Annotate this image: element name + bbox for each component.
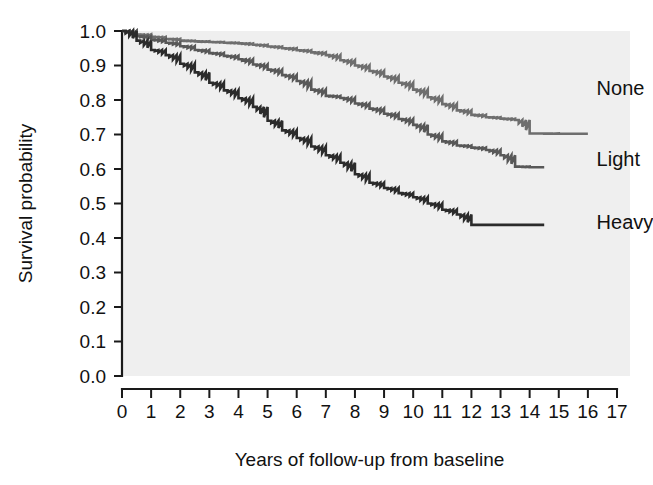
- y-axis-title: Survival probability: [15, 123, 36, 283]
- survival-curve-chart: 0.00.10.20.30.40.50.60.70.80.91.0 012345…: [0, 0, 653, 485]
- x-tick-label: 7: [321, 401, 332, 422]
- x-axis-ticks: 01234567891011121314151617: [117, 389, 628, 422]
- x-tick-label: 17: [606, 401, 627, 422]
- x-tick-label: 10: [403, 401, 424, 422]
- x-tick-label: 12: [461, 401, 482, 422]
- y-tick-label: 0.7: [80, 124, 106, 145]
- x-tick-label: 6: [291, 401, 302, 422]
- y-tick-label: 0.3: [80, 262, 106, 283]
- series-label-none: None: [597, 77, 645, 99]
- y-tick-label: 0.5: [80, 193, 106, 214]
- y-tick-label: 0.9: [80, 55, 106, 76]
- x-tick-label: 16: [577, 401, 598, 422]
- y-tick-label: 0.4: [80, 228, 107, 249]
- y-tick-label: 0.1: [80, 331, 106, 352]
- x-tick-label: 5: [262, 401, 273, 422]
- x-tick-label: 0: [117, 401, 128, 422]
- y-tick-label: 1.0: [80, 21, 106, 42]
- series-label-heavy: Heavy: [597, 211, 653, 233]
- x-tick-label: 4: [233, 401, 244, 422]
- x-tick-label: 14: [519, 401, 541, 422]
- x-tick-label: 3: [204, 401, 215, 422]
- y-tick-label: 0.8: [80, 90, 106, 111]
- y-tick-label: 0.0: [80, 366, 106, 387]
- y-axis-ticks: 0.00.10.20.30.40.50.60.70.80.91.0: [80, 21, 122, 387]
- x-axis-title: Years of follow-up from baseline: [235, 449, 505, 470]
- x-tick-label: 11: [432, 401, 452, 422]
- x-tick-label: 2: [175, 401, 186, 422]
- y-tick-label: 0.2: [80, 297, 106, 318]
- x-tick-label: 9: [379, 401, 390, 422]
- x-tick-label: 13: [490, 401, 511, 422]
- x-tick-label: 15: [548, 401, 569, 422]
- x-tick-label: 8: [350, 401, 361, 422]
- series-label-light: Light: [597, 148, 641, 170]
- y-tick-label: 0.6: [80, 159, 106, 180]
- x-tick-label: 1: [146, 401, 157, 422]
- plot-background: [122, 31, 630, 376]
